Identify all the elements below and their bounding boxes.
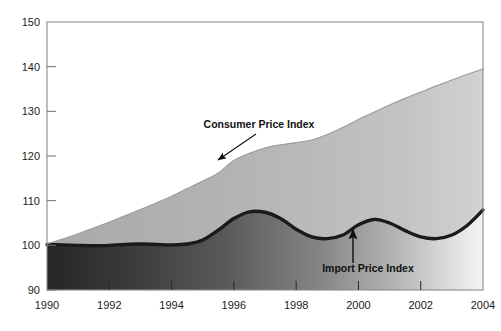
y-tick-label: 150 — [22, 16, 40, 28]
consumer-price-index-label: Consumer Price Index — [204, 118, 315, 130]
x-tick-label: 1998 — [284, 299, 308, 311]
y-tick-label: 90 — [28, 284, 40, 296]
y-tick-label: 100 — [22, 239, 40, 251]
x-tick-label: 2002 — [408, 299, 432, 311]
y-tick-label: 140 — [22, 61, 40, 73]
x-tick-label: 2004 — [471, 299, 495, 311]
y-tick-label: 110 — [22, 195, 40, 207]
y-tick-label: 120 — [22, 150, 40, 162]
price-index-area-chart: 90100110120130140150 1990199219941996199… — [0, 0, 501, 331]
x-tick-label: 2000 — [346, 299, 370, 311]
y-axis-tick-labels: 90100110120130140150 — [22, 16, 40, 296]
import-price-index-label: Import Price Index — [322, 262, 414, 274]
x-tick-label: 1994 — [159, 299, 183, 311]
chart-container: 90100110120130140150 1990199219941996199… — [0, 0, 501, 331]
x-axis-tick-labels: 19901992199419961998200020022004 — [35, 299, 495, 311]
y-tick-label: 130 — [22, 105, 40, 117]
x-tick-label: 1996 — [222, 299, 246, 311]
x-tick-label: 1992 — [97, 299, 121, 311]
x-tick-label: 1990 — [35, 299, 59, 311]
